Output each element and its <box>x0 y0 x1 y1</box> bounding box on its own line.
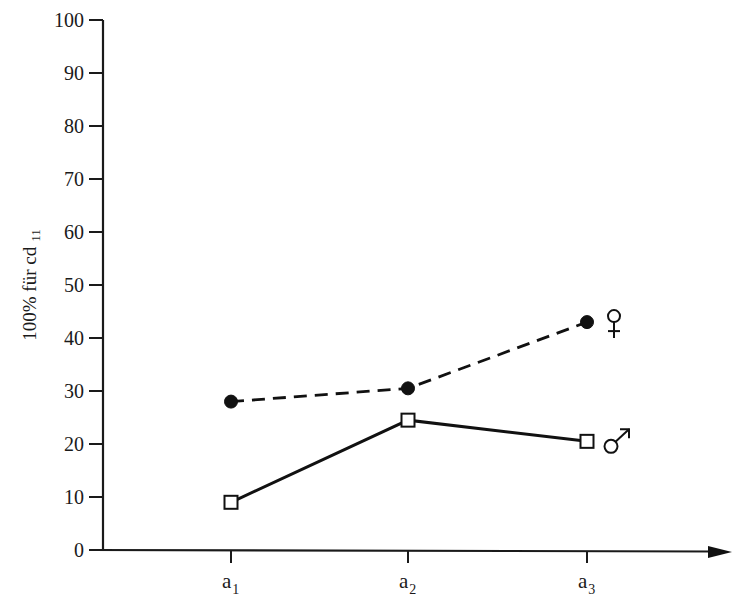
data-point-male-a2 <box>402 414 415 427</box>
series-male <box>225 414 594 509</box>
male-symbol-icon <box>605 429 630 453</box>
y-axis-label-subscript: 11 <box>28 229 43 242</box>
y-tick-label: 10 <box>64 486 84 508</box>
y-tick-label: 90 <box>64 62 84 84</box>
x-category-base: a <box>399 569 409 593</box>
x-category-label: a2 <box>399 569 416 597</box>
x-category-base: a <box>222 569 232 593</box>
data-point-male-a1 <box>225 496 238 509</box>
y-tick-label: 40 <box>64 327 84 349</box>
x-category-label: a1 <box>222 569 239 597</box>
x-category-label: a3 <box>578 569 595 597</box>
x-axis-arrow-icon <box>708 546 732 558</box>
legend-layer <box>605 310 630 453</box>
y-tick-label: 60 <box>64 221 84 243</box>
y-tick-label: 0 <box>74 539 84 561</box>
y-tick-label: 80 <box>64 115 84 137</box>
data-point-male-a3 <box>581 435 594 448</box>
x-axis-ticks: a1a2a3 <box>222 551 595 597</box>
series-layer <box>225 316 594 509</box>
x-category-base: a <box>578 569 588 593</box>
x-axis <box>91 550 714 552</box>
y-axis-label-text: 100% für cd <box>19 246 40 340</box>
x-category-subscript: 1 <box>232 582 239 597</box>
data-point-female-a3 <box>581 316 594 329</box>
female-symbol-icon <box>608 310 620 338</box>
y-tick-label: 30 <box>64 380 84 402</box>
y-tick-label: 100 <box>54 9 84 31</box>
y-tick-label: 70 <box>64 168 84 190</box>
y-axis-ticks: 0102030405060708090100 <box>54 9 103 561</box>
y-tick-label: 20 <box>64 433 84 455</box>
x-category-subscript: 3 <box>588 582 595 597</box>
y-tick-label: 50 <box>64 274 84 296</box>
data-point-female-a1 <box>225 395 238 408</box>
data-point-female-a2 <box>402 382 415 395</box>
series-female <box>225 316 594 409</box>
x-category-subscript: 2 <box>409 582 416 597</box>
male-line <box>231 420 587 502</box>
line-chart: 0102030405060708090100 a1a2a3 100% für c… <box>0 0 737 603</box>
y-axis-label: 100% für cd11 <box>19 229 43 340</box>
